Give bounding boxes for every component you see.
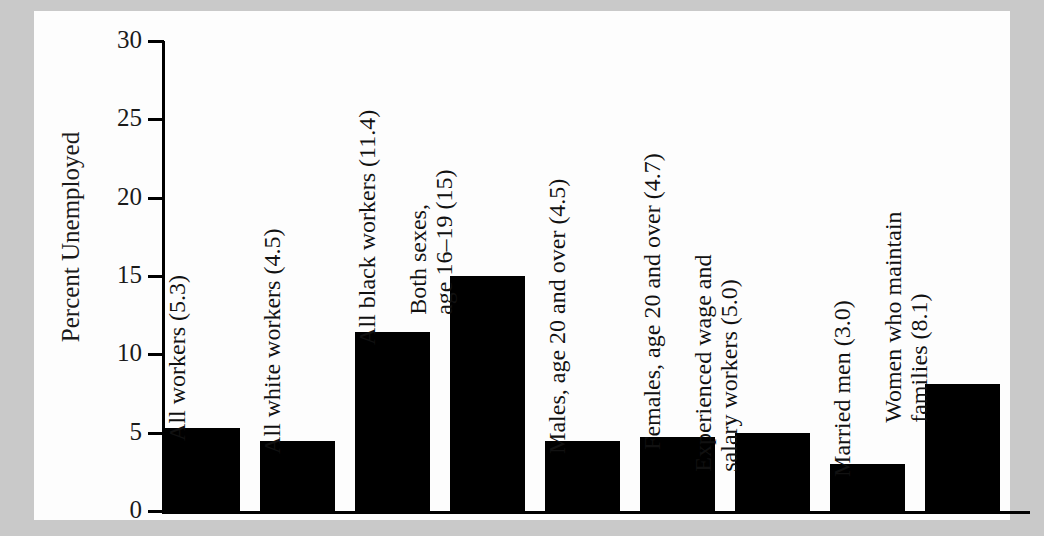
chart-card: Percent Unemployed 302520151050 All work… (34, 11, 1010, 520)
bar-label-line: age 16–19 (15) (432, 169, 458, 314)
y-axis-tick-label: 20 (98, 184, 142, 209)
y-axis-tick (148, 40, 164, 43)
y-axis-tick (148, 275, 164, 278)
bar-label-line: All workers (5.3) (164, 275, 191, 441)
y-axis-tick-label: 10 (98, 340, 142, 365)
bar-label: All black workers (11.4) (354, 110, 381, 345)
y-axis-tick (148, 118, 164, 121)
bar-label-line: Females, age 20 and over (4.7) (639, 154, 666, 451)
bar-chart-figure: Percent Unemployed 302520151050 All work… (0, 0, 1044, 536)
y-axis-tick-labels: 302520151050 (82, 11, 142, 520)
y-axis-tick (148, 432, 164, 435)
y-axis-tick-label: 15 (98, 262, 142, 287)
bar (735, 433, 810, 511)
bar (450, 276, 525, 511)
bar-label: All white workers (4.5) (259, 228, 286, 453)
bar-label-line: Women who maintain (880, 212, 906, 423)
bar-label: Both sexes,age 16–19 (15) (405, 169, 458, 314)
y-axis-tick-label: 25 (98, 105, 142, 130)
bar-label: Females, age 20 and over (4.7) (639, 154, 666, 451)
bar-label-line: Both sexes, (405, 169, 431, 314)
y-axis-tick (148, 353, 164, 356)
y-axis-tick-label: 5 (98, 419, 142, 444)
y-axis-tick (148, 197, 164, 200)
bar-label: Males, age 20 and over (4.5) (544, 178, 571, 453)
bar-label-line: Males, age 20 and over (4.5) (544, 178, 571, 453)
bar-label-line: Married men (3.0) (829, 300, 856, 477)
y-axis-title: Percent Unemployed (57, 127, 85, 347)
bar-label: Women who maintainfamilies (8.1) (880, 212, 933, 423)
y-axis-tick-label: 0 (98, 497, 142, 522)
bar-label-line: All black workers (11.4) (354, 110, 381, 345)
bar-label-line: salary workers (5.0) (717, 254, 743, 471)
bar-label: All workers (5.3) (164, 275, 191, 441)
bar-label: Experienced wage andsalary workers (5.0) (690, 254, 743, 471)
bar-label-line: families (8.1) (907, 212, 933, 423)
y-axis-tick (148, 510, 164, 513)
y-axis-tick-label: 30 (98, 27, 142, 52)
bar-label-line: Experienced wage and (690, 254, 716, 471)
x-axis-line (162, 511, 1030, 514)
bar (925, 384, 1000, 511)
bar (355, 332, 430, 511)
bar-label: Married men (3.0) (829, 300, 856, 477)
bar-label-line: All white workers (4.5) (259, 228, 286, 453)
